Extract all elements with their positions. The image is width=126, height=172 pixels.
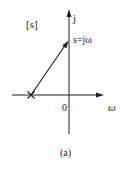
real-axis-arrowhead-icon: [96, 93, 104, 98]
pole-vector: [31, 44, 66, 95]
plane-label: [s]: [26, 19, 38, 30]
imaginary-axis-arrowhead-icon: [67, 9, 72, 17]
point-label: s=jω: [73, 35, 92, 45]
vertical-axis-label: j: [73, 13, 76, 24]
horizontal-axis-label: ω: [108, 102, 116, 113]
origin-label: 0: [62, 103, 67, 113]
figure-caption: (a): [60, 148, 71, 158]
